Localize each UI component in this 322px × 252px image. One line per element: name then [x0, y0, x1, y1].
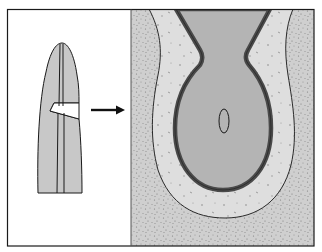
left-panel — [8, 10, 132, 246]
diagram-canvas — [0, 0, 322, 252]
right-panel — [131, 9, 314, 246]
cavity-wall — [175, 9, 271, 190]
